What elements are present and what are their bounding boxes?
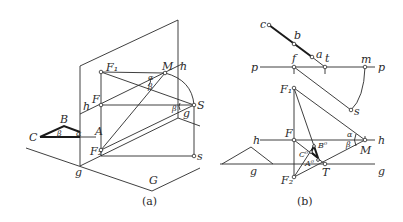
point-C0 (310, 151, 313, 154)
ground-plane-g (26, 148, 200, 191)
label-A: A (94, 125, 103, 138)
caption-b: (b) (297, 195, 313, 208)
label-F1: F₁ (279, 83, 292, 96)
label-beta-2: β (171, 104, 177, 113)
point-a (310, 55, 314, 59)
label-h-left: h (83, 100, 90, 113)
label-alpha-tri: α (76, 129, 82, 138)
label-g-right: g (378, 165, 385, 178)
point-B0 (313, 145, 316, 148)
label-F: F (284, 127, 293, 140)
label-f2: F₂ (89, 145, 102, 158)
figure-a: F₁ F F₂ M h h S s g g G A B C α β β β α … (26, 20, 205, 208)
point-s-b (349, 108, 353, 112)
point-f (99, 103, 103, 107)
point-b (292, 42, 296, 46)
label-p-left: p (251, 61, 258, 74)
point-s (192, 103, 196, 107)
label-M: M (359, 144, 372, 157)
label-G: G (149, 174, 158, 187)
label-beta: β (147, 82, 153, 91)
label-m: m (361, 53, 371, 66)
label-g-mid: g (250, 165, 257, 178)
label-f: f (291, 52, 298, 65)
label-C: C (29, 131, 38, 144)
segment-cba (269, 25, 312, 57)
label-T: T (322, 166, 331, 179)
f-s-line (294, 67, 351, 110)
label-s: s (354, 105, 360, 118)
f2-m-line (101, 73, 165, 150)
triangle-g (222, 147, 273, 164)
rotation-arc-b (351, 67, 365, 110)
figure-b: c b a p p f t m s F₁ F F₂ h h g g M T B⁰… (220, 18, 385, 208)
label-h-top: h (180, 60, 187, 73)
label-alpha-b: α (347, 130, 353, 139)
label-t: t (325, 52, 330, 65)
label-beta-tri: β (56, 129, 62, 138)
point-A0 (317, 159, 320, 162)
point-F1-b (292, 86, 296, 90)
point-t (323, 65, 327, 69)
label-f1: F₁ (105, 61, 118, 74)
label-a: a (316, 48, 323, 61)
label-alpha: α (148, 73, 154, 82)
f1-b0-line (294, 88, 314, 146)
point-f1 (99, 70, 103, 74)
descriptive-geometry-figure: F₁ F F₂ M h h S s g g G A B C α β β β α … (0, 0, 403, 222)
label-h-right: h (378, 134, 385, 147)
label-s-upper: S (197, 99, 205, 112)
label-c: c (260, 18, 266, 31)
label-b: b (294, 29, 301, 42)
label-p-right: p (378, 61, 385, 74)
label-m: M (161, 60, 174, 73)
angle-mark (179, 103, 180, 110)
point-f-b (292, 65, 296, 69)
label-C0: C⁰ (299, 150, 309, 159)
label-g-bottom: g (75, 166, 82, 179)
label-g-right: g (183, 107, 190, 120)
label-f: F (91, 93, 100, 106)
caption-a: (a) (142, 195, 157, 208)
label-B0: B⁰ (317, 141, 328, 150)
label-A0: A⁰ (304, 159, 315, 168)
label-B: B (59, 113, 68, 126)
label-beta-b: β (345, 140, 351, 149)
label-h-left: h (253, 134, 260, 147)
label-F2: F₂ (280, 174, 293, 187)
label-s-lower: s (197, 150, 203, 163)
f2-s-line (101, 105, 194, 150)
point-M-b (363, 138, 367, 142)
point-F-b (292, 138, 296, 142)
point-c (267, 23, 271, 27)
point-s-ground (192, 154, 196, 158)
